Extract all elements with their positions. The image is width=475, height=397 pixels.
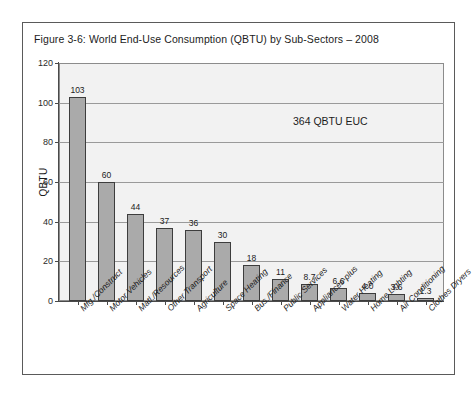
x-label-slot: Other Transport — [150, 301, 179, 381]
chart-annotation: 364 QBTU EUC — [293, 115, 368, 127]
bar-value-label: 60 — [102, 170, 111, 180]
bar-slot: 8.7 — [295, 63, 324, 301]
bar[interactable] — [69, 97, 86, 301]
bar-slot: 1.3 — [411, 63, 440, 301]
x-label-slot: Agriculture — [179, 301, 208, 381]
bar-slot: 4.0 — [353, 63, 382, 301]
bar-value-label: 30 — [218, 230, 227, 240]
bar-value-label: 37 — [160, 216, 169, 226]
bar-series: 103604437363018118.76.64.03.61.3 — [59, 63, 444, 301]
bar-slot: 3.6 — [382, 63, 411, 301]
x-label-slot: Bus./Finance — [237, 301, 266, 381]
x-label-slot: Matl./Resources — [121, 301, 150, 381]
x-label-slot: Motor Vehicles — [92, 301, 121, 381]
bar-value-label: 36 — [189, 218, 198, 228]
x-label-slot: Water Heating — [324, 301, 353, 381]
bar-slot: 18 — [237, 63, 266, 301]
bar-slot: 6.6 — [324, 63, 353, 301]
x-axis-labels: Mfg./ConstructMotor VehiclesMatl./Resour… — [59, 301, 444, 381]
bar-slot: 44 — [121, 63, 150, 301]
figure-frame: Figure 3-6: World End-Use Consumption (Q… — [22, 22, 455, 375]
bar-slot: 36 — [179, 63, 208, 301]
x-label-slot: Home Lighting — [353, 301, 382, 381]
x-label-slot: Appliances-plus — [295, 301, 324, 381]
bar-slot: 60 — [92, 63, 121, 301]
bar-slot: 37 — [150, 63, 179, 301]
x-label-slot: Clothes Dryers — [411, 301, 440, 381]
bar-slot: 103 — [63, 63, 92, 301]
figure-screenshot: Figure 3-6: World End-Use Consumption (Q… — [0, 0, 475, 397]
x-label-slot: Mfg./Construct — [63, 301, 92, 381]
chart-plot: QBTU 020406080100120 103604437363018118.… — [59, 63, 444, 301]
figure-caption: Figure 3-6: World End-Use Consumption (Q… — [34, 33, 379, 45]
bar-value-label: 18 — [247, 253, 256, 263]
bar-value-label: 103 — [70, 85, 84, 95]
bar-slot: 11 — [266, 63, 295, 301]
x-label-slot: Air Conditioning — [382, 301, 411, 381]
bar-slot: 30 — [208, 63, 237, 301]
x-label-slot: Space Heating — [208, 301, 237, 381]
x-label-slot: Public Services — [266, 301, 295, 381]
bar-value-label: 44 — [131, 202, 140, 212]
